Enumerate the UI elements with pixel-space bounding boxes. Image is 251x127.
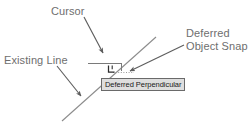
callout-label-deferred-line2: Object Snap	[186, 40, 248, 53]
cursor-leader-arrow	[84, 17, 103, 53]
deferred-snap-leader-arrow	[130, 45, 184, 71]
callout-label-deferred-line1: Deferred	[186, 27, 248, 40]
existing-line-leader-arrow	[57, 66, 81, 96]
callout-label-cursor: Cursor	[51, 5, 85, 18]
perpendicular-snap-marker	[109, 66, 115, 73]
callout-label-deferred-object-snap: Deferred Object Snap	[186, 27, 248, 52]
diagram-canvas: Cursor Existing Line Deferred Object Sna…	[0, 0, 251, 127]
snap-tooltip: Deferred Perpendicular	[101, 78, 185, 91]
callout-label-existing-line: Existing Line	[4, 54, 68, 67]
